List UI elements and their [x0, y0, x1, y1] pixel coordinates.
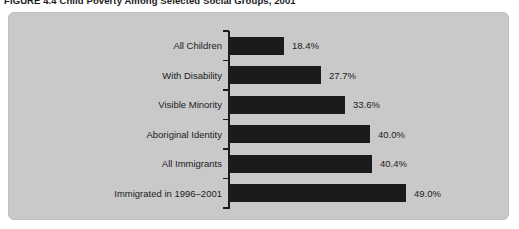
category-label: Visible Minority: [9, 90, 222, 120]
bar: [229, 66, 321, 84]
bar-row: Aboriginal Identity40.0%: [9, 120, 508, 150]
value-label: 33.6%: [353, 90, 380, 120]
value-label: 27.7%: [329, 61, 356, 91]
bar-row: Immigrated in 1996–200149.0%: [9, 179, 508, 209]
bar-row: All Immigrants40.4%: [9, 149, 508, 179]
category-label: All Immigrants: [9, 149, 222, 179]
bar-row: Visible Minority33.6%: [9, 90, 508, 120]
category-label: Immigrated in 1996–2001: [9, 179, 222, 209]
bar: [229, 184, 406, 202]
value-label: 49.0%: [414, 179, 441, 209]
chart-panel: All Children18.4%With Disability27.7%Vis…: [8, 12, 509, 220]
bar-row: With Disability27.7%: [9, 61, 508, 91]
figure-title: FIGURE 4.4 Child Poverty Among Selected …: [4, 0, 296, 6]
category-label: With Disability: [9, 61, 222, 91]
category-label: Aboriginal Identity: [9, 120, 222, 150]
value-label: 18.4%: [292, 31, 319, 61]
bar-row: All Children18.4%: [9, 31, 508, 61]
bar: [229, 37, 284, 55]
bar: [229, 155, 372, 173]
bar: [229, 125, 370, 143]
category-label: All Children: [9, 31, 222, 61]
value-label: 40.0%: [378, 120, 405, 150]
bar-chart: All Children18.4%With Disability27.7%Vis…: [9, 13, 508, 219]
value-label: 40.4%: [380, 149, 407, 179]
figure-title-clip: FIGURE 4.4 Child Poverty Among Selected …: [4, 0, 514, 6]
bar: [229, 96, 345, 114]
